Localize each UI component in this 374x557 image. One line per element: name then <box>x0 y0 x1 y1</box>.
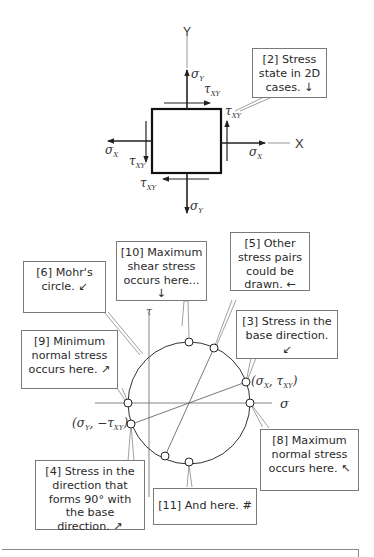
x-axis-label: X <box>295 136 304 151</box>
callout-9-min-normal: [9] Minimum normal stress occurs here. ↗ <box>21 330 118 389</box>
sigma-x-right-label: σX <box>249 145 262 161</box>
sigma-x-left-label: σX <box>105 143 118 159</box>
point-min-normal-stress <box>124 399 132 407</box>
bottom-divider <box>2 549 359 550</box>
sigma-y-bottom-label: σY <box>190 199 203 215</box>
callout-11-and-here: [11] And here. # <box>153 488 257 525</box>
point-y-label: (σY, −τXY) <box>72 416 128 432</box>
point-sigma-x-tau-xy <box>242 378 250 386</box>
point-sigma-y-minus-tau-xy <box>127 420 135 428</box>
tau-axis-label: τ <box>146 305 152 318</box>
tau-xy-bottom-label: τXY <box>140 176 156 192</box>
callout-8-max-normal: [8] Maximum normal stress occurs here. ↖ <box>260 429 359 491</box>
point-other-stress-pair-bottom <box>161 452 169 460</box>
sigma-y-top-label: σY <box>191 67 204 83</box>
point-max-shear-top <box>185 338 193 346</box>
callout-4-ninety-degree: [4] Stress in the direction that forms 9… <box>35 460 145 530</box>
tau-xy-top-label: τXY <box>204 82 220 98</box>
callout-5-other-pairs: [5] Other stress pairs could be drawn. ← <box>230 232 310 291</box>
tau-xy-left-label: τXY <box>129 154 145 170</box>
tau-xy-right-label: τXY <box>225 104 241 120</box>
stress-element-square <box>152 109 221 173</box>
point-other-stress-pair-top <box>210 344 218 352</box>
point-max-normal-stress <box>246 399 254 407</box>
sigma-axis-label: σ <box>280 396 289 411</box>
callout-10-max-shear: [10] Maximum shear stress occurs here...… <box>116 241 207 301</box>
bottom-divider-edge <box>358 549 359 557</box>
callout-3-base-direction: [3] Stress in the base direction. ↙ <box>236 310 338 359</box>
y-axis-label: Y <box>183 25 191 39</box>
point-x-label: (σX, τXY) <box>251 374 297 390</box>
callout-2-stress-state: [2] Stress state in 2D cases. ↓ <box>252 48 327 98</box>
point-max-shear-bottom <box>185 458 193 466</box>
callout-6-mohrs-circle: [6] Mohr's circle. ↙ <box>23 261 106 313</box>
